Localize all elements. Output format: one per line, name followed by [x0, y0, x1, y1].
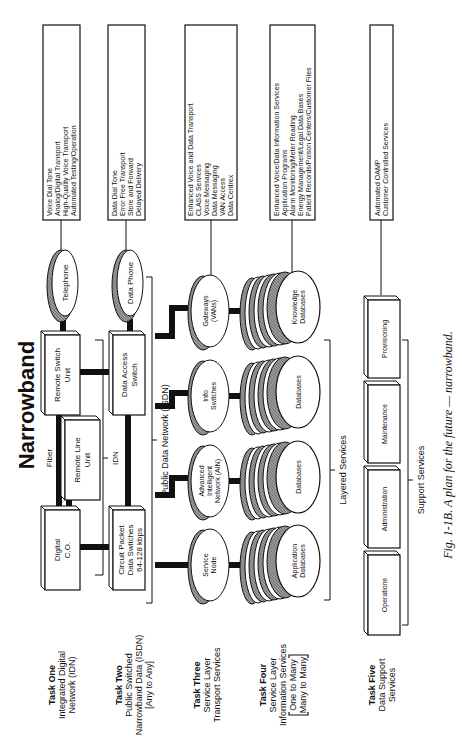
svg-text:Telephone: Telephone — [61, 264, 70, 301]
svg-text:Task Three: Task Three — [192, 662, 202, 709]
svg-text:Voice Dial Tone: Voice Dial Tone — [46, 168, 53, 216]
svg-text:Public Switched: Public Switched — [124, 653, 134, 717]
database-stack-4: Knowledge Databases — [240, 271, 320, 350]
node-connector-1 — [155, 562, 188, 568]
svg-text:Store and Forward: Store and Forward — [127, 158, 134, 216]
support-box-operations: Operations — [364, 551, 400, 635]
feature-box-1: Voice Dial Tone Analog/Digital Transport… — [43, 25, 80, 250]
svg-text:CLASS Services: CLASS Services — [195, 164, 202, 216]
diagram-title: Narrowband — [14, 341, 39, 469]
feature-box-5: Automated OAMP Customer Controlled Servi… — [370, 25, 393, 295]
svg-text:Layered Services: Layered Services — [338, 435, 348, 505]
service-node-3: Info Switches — [188, 360, 229, 435]
digital-co-box: Digital C.O. — [41, 506, 80, 590]
database-stack-3: Databases — [240, 356, 320, 435]
svg-text:Task One: Task One — [47, 665, 57, 705]
svg-text:Data Dial Tone: Data Dial Tone — [111, 170, 118, 216]
task-three-label: Task Three Service Layer Transport Servi… — [192, 647, 222, 723]
support-services-bracket: Support Services — [402, 340, 426, 625]
svg-text:Voice Messaging: Voice Messaging — [203, 163, 211, 216]
svg-text:Application Programs: Application Programs — [281, 149, 289, 216]
figure-caption: Fig. 1-1B. A plan for the future — narro… — [441, 331, 455, 560]
fiber-label: Fiber — [45, 449, 54, 468]
task-two-label: Task Two Public Switched Narrowband Data… — [114, 635, 154, 736]
svg-text:Integrated Digital: Integrated Digital — [57, 651, 67, 719]
svg-text:Databases: Databases — [299, 290, 306, 324]
rsu-das-link — [80, 369, 113, 375]
svg-text:Data Support: Data Support — [377, 658, 387, 712]
layered-services-bracket: Layered Services — [324, 340, 348, 600]
svg-text:Many to Many: Many to Many — [298, 656, 308, 713]
data-phone-node: Data Phone — [112, 250, 143, 322]
svg-text:Analog/Digital Transport: Analog/Digital Transport — [54, 141, 62, 216]
svg-text:Gateways: Gateways — [202, 295, 210, 327]
support-box-provisioning: Provisioning — [364, 296, 400, 378]
svg-text:Service Layer: Service Layer — [268, 657, 278, 712]
svg-text:Network (IDN): Network (IDN) — [67, 656, 77, 713]
svg-text:Customer Controlled Services: Customer Controlled Services — [382, 123, 389, 216]
svg-text:Node: Node — [210, 557, 217, 574]
svg-text:Remote Switch: Remote Switch — [53, 348, 62, 402]
svg-text:Services: Services — [387, 667, 397, 702]
svg-text:Automated OAMP: Automated OAMP — [374, 159, 381, 216]
task-five-label: Task Five Data Support Services — [367, 658, 397, 712]
svg-text:Advanced: Advanced — [198, 465, 205, 496]
packet-das-link — [125, 415, 131, 510]
svg-text:Circuit Packet: Circuit Packet — [117, 525, 126, 575]
svg-text:One to Many: One to Many — [288, 659, 298, 711]
task-four-label: Task Four Service Layer Information Serv… — [258, 643, 308, 726]
svg-text:Delayed Delivery: Delayed Delivery — [135, 163, 143, 216]
svg-text:Intelligent: Intelligent — [206, 466, 214, 496]
svg-text:Error Free Transport: Error Free Transport — [119, 153, 127, 216]
svg-text:Data Access: Data Access — [120, 353, 129, 397]
support-box-maintenance: Maintenance — [364, 381, 400, 463]
remote-switch-unit-box: Remote Switch Unit — [41, 331, 80, 415]
svg-text:Application: Application — [291, 544, 299, 578]
svg-text:Data Switches: Data Switches — [126, 524, 135, 575]
svg-text:[Any to Any]: [Any to Any] — [144, 661, 154, 709]
svg-text:64-128 kbps: 64-128 kbps — [135, 528, 144, 572]
svg-text:Narrowband: Narrowband — [14, 341, 39, 469]
feature-box-3: Enhanced Voice and Data Transport CLASS … — [185, 25, 237, 308]
service-node-1: Service Node — [188, 529, 229, 604]
svg-text:Knowledge: Knowledge — [291, 290, 299, 325]
svg-text:Task Five: Task Five — [367, 665, 377, 705]
svg-text:Switch: Switch — [130, 363, 139, 387]
svg-text:Public Data Network (ISDN): Public Data Network (ISDN) — [160, 384, 170, 496]
svg-text:VAN Access: VAN Access — [219, 178, 226, 216]
svg-text:Enhanced Voice/Data Informatio: Enhanced Voice/Data Information Services — [273, 82, 280, 216]
svg-text:Transport Services: Transport Services — [212, 647, 222, 723]
svg-text:C.O.: C.O. — [63, 542, 72, 558]
svg-text:Service Layer: Service Layer — [202, 657, 212, 712]
database-stack-1: Application Databases — [240, 525, 320, 604]
feature-box-2: Data Dial Tone Error Free Transport Stor… — [108, 25, 145, 250]
svg-text:Energy Management/Legal Data B: Energy Management/Legal Data Bases — [297, 93, 305, 216]
service-node-2: Advanced Intelligent Network (AIN) — [188, 445, 229, 520]
svg-text:Support Services: Support Services — [416, 445, 426, 514]
svg-text:Provisioning: Provisioning — [381, 320, 389, 358]
svg-text:Unit: Unit — [63, 367, 72, 382]
svg-text:Unit: Unit — [83, 452, 92, 467]
svg-text:Maintenance: Maintenance — [381, 404, 388, 444]
svg-text:Fig. 1-1B. A plan for the futu: Fig. 1-1B. A plan for the future — narro… — [441, 331, 455, 560]
svg-text:Task Four: Task Four — [258, 663, 268, 706]
public-data-network-bracket: Public Data Network (ISDN) — [146, 277, 170, 603]
task-one-label: Task One Integrated Digital Network (IDN… — [47, 651, 77, 719]
service-node-4: Gateways (VANs) — [188, 275, 229, 350]
svg-text:Databases: Databases — [295, 460, 302, 494]
support-box-administration: Administration — [364, 466, 400, 548]
svg-text:Remote Line: Remote Line — [73, 437, 82, 483]
diagram-canvas: Narrowband Voice Dial Tone Analog/Digita… — [0, 0, 462, 748]
svg-text:Information Services: Information Services — [278, 643, 288, 726]
svg-text:Databases: Databases — [295, 375, 302, 409]
remote-line-unit-box: Remote Line Unit — [61, 416, 100, 500]
svg-text:(VANs): (VANs) — [210, 300, 218, 322]
svg-text:Switches: Switches — [210, 381, 217, 410]
svg-text:Patient Records/Poison Centers: Patient Records/Poison Centers/Customer … — [305, 67, 312, 216]
svg-text:High-Quality Voice Transport: High-Quality Voice Transport — [62, 127, 70, 216]
svg-text:Operations: Operations — [381, 577, 389, 612]
svg-text:Databases: Databases — [299, 544, 306, 578]
svg-text:Alarm Monitoring/Meter Reading: Alarm Monitoring/Meter Reading — [289, 115, 297, 216]
svg-text:Info: Info — [202, 390, 209, 402]
database-stack-2: Databases — [240, 441, 320, 520]
